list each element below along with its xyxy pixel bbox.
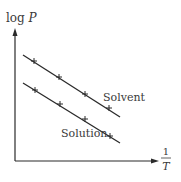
solvent-label: Solvent [103,91,145,104]
y-axis-label: log P [6,11,38,25]
solution-label: Solution [61,127,107,140]
x-axis-arrow-icon [151,159,159,164]
x-axis-label: 1 T [161,146,171,173]
log-p-vs-inverse-t-diagram: log P 1 T Solvent Solution [0,0,181,182]
solvent-data-marks [31,58,112,111]
svg-text:T: T [162,160,171,173]
svg-text:1: 1 [163,146,169,157]
y-axis-arrow-icon [13,28,18,36]
solvent-line [23,55,120,117]
